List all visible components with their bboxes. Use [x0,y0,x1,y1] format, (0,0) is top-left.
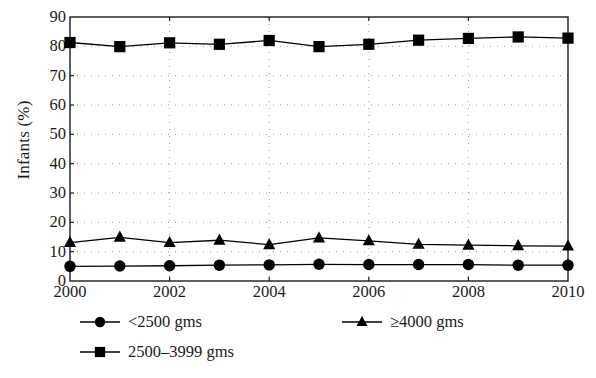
data-point-marker [463,259,474,270]
series-circle [64,259,573,272]
data-point-marker [413,35,424,46]
data-point-marker [562,239,574,250]
data-point-marker [363,259,374,270]
series-triangle [64,231,574,251]
data-point-marker [363,234,375,245]
data-point-marker [313,41,324,52]
data-point-marker [213,234,225,245]
data-point-marker [95,317,105,327]
data-point-marker [164,37,175,48]
data-point-marker [114,41,125,52]
legend-marker-square-icon [78,344,122,360]
legend-entry[interactable]: ≥4000 gms [340,314,464,331]
data-point-marker [357,316,368,326]
legend-label: 2500–3999 gms [128,344,234,361]
data-point-marker [463,33,474,44]
data-point-marker [114,260,125,271]
data-point-marker [114,231,126,242]
legend-entry[interactable]: 2500–3999 gms [78,344,234,361]
data-point-marker [562,259,573,270]
data-point-marker [214,259,225,270]
data-point-marker [313,231,325,242]
data-point-marker [64,37,75,48]
chart-plot-area: Infants (%) 0102030405060708090 20002002… [0,0,596,300]
data-point-marker [264,35,275,46]
series-square [64,31,573,52]
series-plot [0,0,596,300]
chart-legend: <2500 gms2500–3999 gms≥4000 gms [0,300,596,378]
data-point-marker [263,259,274,270]
data-point-marker [313,259,324,270]
data-point-marker [363,39,374,50]
data-point-marker [462,239,474,250]
data-point-marker [64,261,75,272]
data-point-marker [413,259,424,270]
data-point-marker [95,347,105,357]
data-point-marker [562,33,573,44]
data-point-marker [214,39,225,50]
data-point-marker [513,31,524,42]
legend-marker-circle-icon [78,314,122,330]
legend-label: ≥4000 gms [390,314,464,331]
legend-entry[interactable]: <2500 gms [78,314,202,331]
figure: Infants (%) 0102030405060708090 20002002… [0,0,596,378]
data-point-marker [512,239,524,250]
legend-marker-triangle-icon [340,314,384,330]
data-point-marker [512,259,523,270]
data-point-marker [413,238,425,249]
legend-label: <2500 gms [128,314,202,331]
data-point-marker [164,260,175,271]
